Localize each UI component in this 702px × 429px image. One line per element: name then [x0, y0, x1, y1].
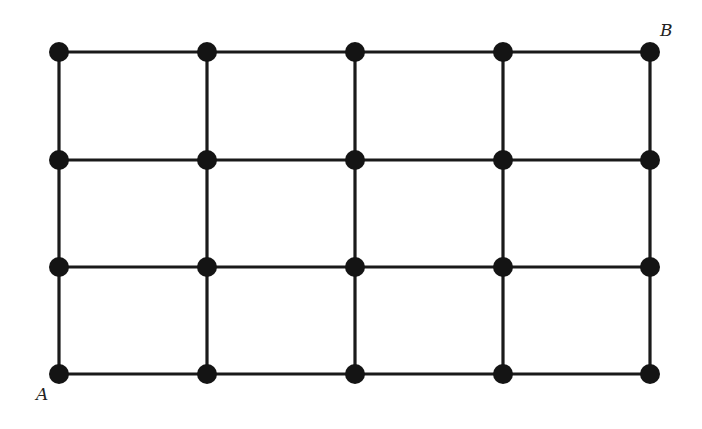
grid-node	[197, 364, 217, 384]
grid-node	[345, 257, 365, 277]
grid-node	[49, 364, 69, 384]
grid-node	[493, 257, 513, 277]
label-b: B	[659, 20, 673, 40]
grid-node	[493, 42, 513, 62]
grid-node	[49, 42, 69, 62]
grid-node	[345, 364, 365, 384]
grid-edges	[59, 52, 650, 374]
grid-diagram: A B	[0, 0, 702, 429]
grid-node	[197, 42, 217, 62]
grid-node	[493, 364, 513, 384]
grid-node	[640, 257, 660, 277]
grid-node	[640, 364, 660, 384]
grid-node	[345, 42, 365, 62]
grid-node	[640, 150, 660, 170]
grid-node	[197, 150, 217, 170]
label-a: A	[34, 384, 48, 404]
grid-node	[493, 150, 513, 170]
grid-node	[640, 42, 660, 62]
grid-node	[49, 150, 69, 170]
grid-node	[345, 150, 365, 170]
grid-node	[49, 257, 69, 277]
grid-node	[197, 257, 217, 277]
